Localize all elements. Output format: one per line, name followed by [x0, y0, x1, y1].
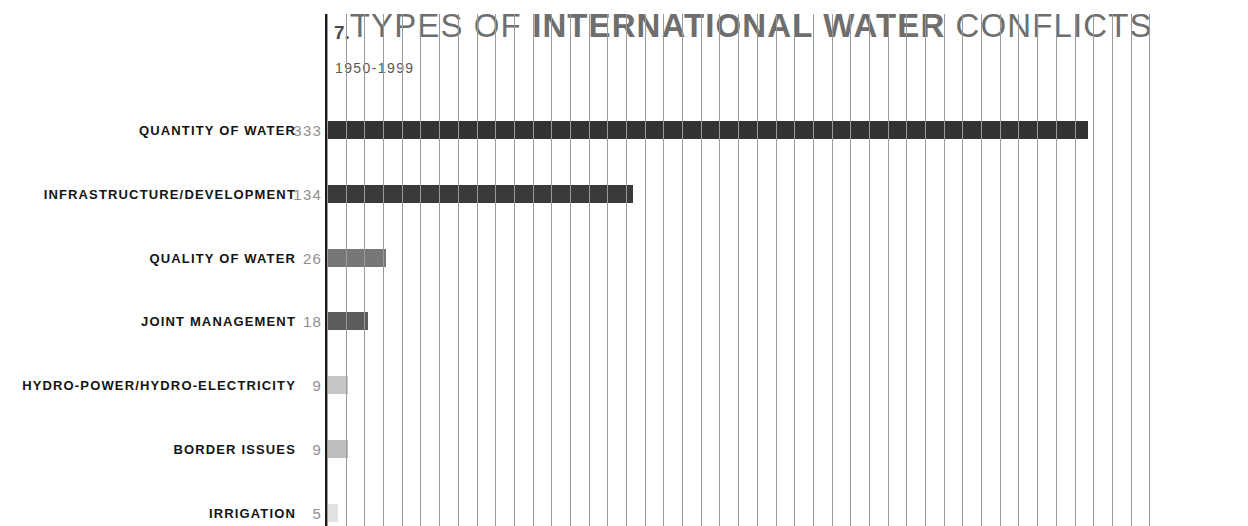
chart-row: QUALITY OF WATER26 — [0, 249, 1248, 267]
bar-value-label: 18 — [264, 313, 322, 330]
bar-value-label: 9 — [264, 441, 322, 458]
chart-row: BORDER ISSUES9 — [0, 440, 1248, 458]
bar — [327, 504, 338, 522]
bar-value-label: 5 — [264, 505, 322, 522]
bar-value-label: 9 — [264, 377, 322, 394]
bar — [327, 185, 633, 203]
chart-row: JOINT MANAGEMENT18 — [0, 312, 1248, 330]
bar-value-label: 333 — [264, 122, 322, 139]
bar-rows: QUANTITY OF WATER333INFRASTRUCTURE/DEVEL… — [0, 0, 1248, 526]
bar-value-label: 26 — [264, 250, 322, 267]
bar — [327, 376, 348, 394]
bar — [327, 312, 368, 330]
bar-category-label: HYDRO-POWER/HYDRO-ELECTRICITY — [22, 378, 296, 393]
bar — [327, 440, 348, 458]
chart-row: IRRIGATION5 — [0, 504, 1248, 522]
chart-figure: 7.TYPES OF INTERNATIONAL WATER CONFLICTS… — [0, 0, 1248, 526]
bar — [327, 249, 386, 267]
chart-row: HYDRO-POWER/HYDRO-ELECTRICITY9 — [0, 376, 1248, 394]
bar-category-label: INFRASTRUCTURE/DEVELOPMENT — [44, 187, 296, 202]
chart-row: QUANTITY OF WATER333 — [0, 121, 1248, 139]
bar-value-label: 134 — [264, 186, 322, 203]
bar — [327, 121, 1088, 139]
chart-row: INFRASTRUCTURE/DEVELOPMENT134 — [0, 185, 1248, 203]
